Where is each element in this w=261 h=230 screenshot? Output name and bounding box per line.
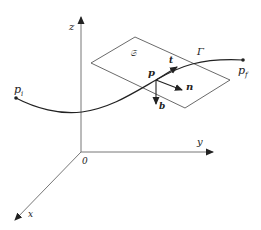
point-p-label: p bbox=[148, 67, 155, 78]
x-axis bbox=[15, 152, 81, 220]
x-axis-label: x bbox=[28, 209, 33, 219]
normal-label: n bbox=[186, 81, 193, 92]
osculating-plane bbox=[91, 37, 230, 108]
start-point bbox=[14, 96, 18, 100]
y-axis-label: y bbox=[196, 136, 203, 147]
tangent-vector bbox=[156, 67, 177, 80]
end-point bbox=[241, 58, 245, 62]
frenet-diagram: z y 0 x 𝔖 Γ pi pf p t n b bbox=[0, 0, 261, 230]
binormal-label: b bbox=[159, 101, 165, 111]
normal-vector bbox=[156, 80, 182, 90]
curve-label: Γ bbox=[196, 46, 205, 57]
start-point-label-main: p bbox=[14, 83, 21, 96]
end-point-label: pf bbox=[238, 64, 249, 79]
end-point-label-main: p bbox=[238, 64, 245, 77]
tangent-label: t bbox=[169, 55, 174, 65]
end-point-label-sub: f bbox=[244, 71, 249, 79]
start-point-label: pi bbox=[14, 83, 23, 98]
plane-label: 𝔖 bbox=[130, 48, 138, 58]
origin-label: 0 bbox=[82, 156, 88, 166]
start-point-label-sub: i bbox=[21, 90, 23, 98]
curve-gamma bbox=[16, 60, 243, 113]
z-axis-label: z bbox=[68, 21, 75, 32]
